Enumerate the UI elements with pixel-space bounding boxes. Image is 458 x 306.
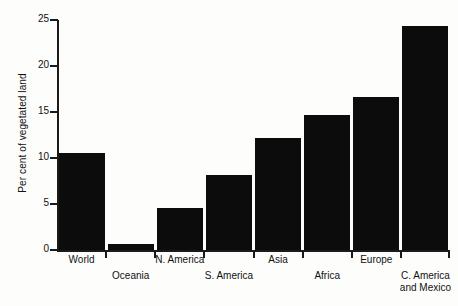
bar — [304, 115, 350, 250]
y-axis-tick-label: 0 — [19, 244, 49, 254]
x-axis-category-label: N. America — [142, 254, 218, 266]
y-axis-tick-label: 5 — [19, 198, 49, 208]
plot-area: 0510152025 — [57, 20, 450, 250]
x-axis-category-label: Europe — [338, 254, 414, 266]
bar — [206, 175, 252, 250]
y-axis-tick-label: 10 — [19, 152, 49, 162]
x-axis-category-label: Asia — [240, 254, 316, 266]
y-axis-tick-label: 25 — [19, 14, 49, 24]
bar — [353, 97, 399, 250]
y-axis-tick — [50, 157, 58, 159]
bar — [59, 153, 105, 250]
y-axis-tick-label: 15 — [19, 106, 49, 116]
y-axis-tick — [50, 19, 58, 21]
bar — [255, 138, 301, 250]
x-axis-category-label: Africa — [289, 270, 365, 282]
x-axis-category-label: C. America and Mexico — [387, 270, 458, 294]
x-axis-category-label: S. America — [191, 270, 267, 282]
bar — [402, 26, 448, 250]
y-axis-tick — [50, 203, 58, 205]
bar — [157, 208, 203, 250]
x-axis-category-labels: WorldOceaniaN. AmericaS. AmericaAsiaAfri… — [57, 250, 458, 306]
y-axis-tick-label: 20 — [19, 60, 49, 70]
x-axis-category-label: World — [44, 254, 120, 266]
y-axis-tick — [50, 65, 58, 67]
y-axis-tick — [50, 111, 58, 113]
bar-chart-figure: Per cent of vegetated land 0510152025 Wo… — [0, 0, 458, 306]
y-axis-tick-labels: 0510152025 — [15, 20, 49, 251]
x-axis-category-label: Oceania — [93, 270, 169, 282]
